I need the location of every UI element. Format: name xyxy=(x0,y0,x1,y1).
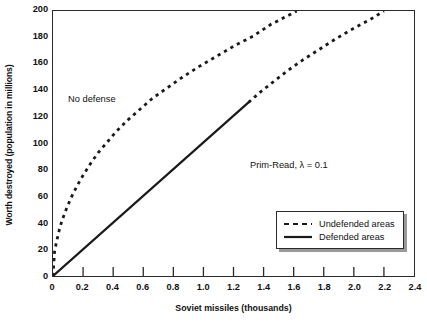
y-tick-label: 100 xyxy=(18,139,48,148)
legend-item-defended: Defended areas xyxy=(283,230,397,243)
annotation-prim-read: Prim-Read, λ = 0.1 xyxy=(250,160,328,170)
x-tick-label: 2.4 xyxy=(395,282,427,292)
y-axis-ticks: 200 180 160 140 120 100 80 60 40 20 0 xyxy=(16,0,48,326)
y-tick-label: 20 xyxy=(18,245,48,254)
legend-label: Undefended areas xyxy=(319,219,395,229)
annotation-no-defense: No defense xyxy=(68,94,116,104)
dashed-line-icon xyxy=(283,218,313,230)
series-line xyxy=(53,11,297,276)
y-tick-label: 80 xyxy=(18,165,48,174)
x-tick-marks xyxy=(83,267,384,276)
x-axis-label: Soviet missiles (thousands) xyxy=(52,303,415,313)
y-tick-label: 160 xyxy=(18,58,48,67)
y-tick-label: 40 xyxy=(18,219,48,228)
chart-figure: Worth destroyed (population in millions)… xyxy=(0,0,427,326)
y-tick-label: 0 xyxy=(18,272,48,281)
legend-item-undefended: Undefended areas xyxy=(283,217,397,230)
y-tick-label: 200 xyxy=(18,5,48,14)
y-tick-label: 120 xyxy=(18,112,48,121)
legend-label: Defended areas xyxy=(319,232,384,242)
y-tick-label: 180 xyxy=(18,32,48,41)
y-tick-label: 60 xyxy=(18,192,48,201)
chart-legend: Undefended areas Defended areas xyxy=(276,211,404,249)
y-tick-label: 140 xyxy=(18,85,48,94)
solid-line-icon xyxy=(283,231,313,243)
y-axis-label-text: Worth destroyed (population in millions) xyxy=(4,64,14,225)
series-line xyxy=(53,102,249,276)
